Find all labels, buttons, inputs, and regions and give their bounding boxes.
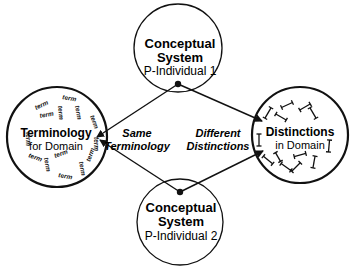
distinctions-subtitle: in Domain [275, 139, 325, 151]
bottom-node-dot [177, 189, 183, 195]
bottom-node-title: Conceptual [146, 200, 217, 215]
bottom-node-subtitle: System [158, 214, 204, 229]
different-distinctions-label-line1: Different [195, 127, 241, 139]
bottom-node-individual: P-Individual 2 [145, 229, 218, 243]
same-terminology-label-line2: Terminology [104, 140, 170, 152]
different-distinctions-label-line2: Distinctions [187, 140, 250, 152]
svg-text:term: term [78, 161, 87, 176]
svg-text:term: term [33, 99, 49, 111]
same-terminology-label-line1: Same [122, 127, 151, 139]
svg-text:term: term [39, 110, 54, 119]
svg-text:term: term [74, 105, 83, 120]
distinctions-title: Distinctions [266, 125, 335, 139]
top-node-title: Conceptual [145, 36, 216, 51]
svg-text:term: term [84, 147, 95, 163]
svg-text:term: term [25, 132, 32, 146]
top-node-individual: P-Individual 1 [144, 64, 217, 78]
top-node-dot [175, 81, 181, 87]
diagram-canvas: Conceptual System P-Individual 1 Concept… [0, 0, 351, 273]
top-node-subtitle: System [157, 50, 203, 65]
svg-text:term: term [58, 171, 73, 180]
svg-text:term: term [28, 151, 44, 162]
svg-text:term: term [62, 93, 77, 102]
svg-text:term: term [43, 157, 52, 172]
svg-text:term: term [57, 105, 65, 120]
terminology-subtitle: for Domain [29, 140, 83, 152]
